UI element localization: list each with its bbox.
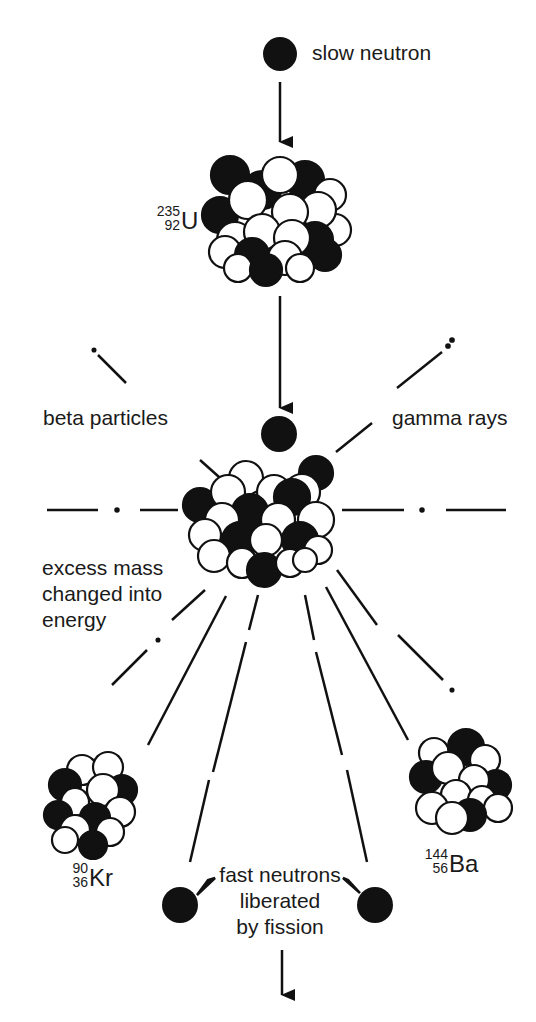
barium-symbol: Ba [449, 850, 478, 878]
krypton-nucleus [44, 752, 137, 859]
barium-nucleus [410, 729, 512, 834]
splitting-nucleus [183, 456, 334, 587]
fast-neutrons-line-3: by fission [205, 914, 355, 940]
barium-label: 144 56 Ba [418, 848, 498, 888]
fast-neutron-right [357, 887, 393, 923]
uranium-nucleus [202, 156, 351, 286]
slow-neutron-label: slow neutron [312, 40, 431, 66]
uranium-label: 235 92 U [150, 205, 210, 245]
excess-mass-line-3: energy [42, 607, 163, 633]
fast-neutrons-line-2: liberated [205, 888, 355, 914]
fast-neutron-left [162, 887, 198, 923]
excess-mass-line-2: changed into [42, 581, 163, 607]
slow-neutron [263, 37, 297, 71]
fast-neutrons-line-1: fast neutrons [205, 862, 355, 888]
krypton-symbol: Kr [89, 864, 113, 892]
beta-particles-label: beta particles [43, 405, 168, 431]
excess-mass-label: excess mass changed into energy [42, 555, 163, 633]
neutron-absorbed [261, 416, 297, 452]
barium-atomic-number: 56 [418, 862, 448, 875]
krypton-atomic-number: 36 [66, 876, 88, 889]
uranium-symbol: U [181, 207, 198, 235]
excess-mass-line-1: excess mass [42, 555, 163, 581]
gamma-rays-label: gamma rays [392, 405, 508, 431]
krypton-label: 90 36 Kr [66, 862, 136, 902]
fast-neutrons-label: fast neutrons liberated by fission [205, 862, 355, 940]
uranium-atomic-number: 92 [150, 219, 180, 232]
